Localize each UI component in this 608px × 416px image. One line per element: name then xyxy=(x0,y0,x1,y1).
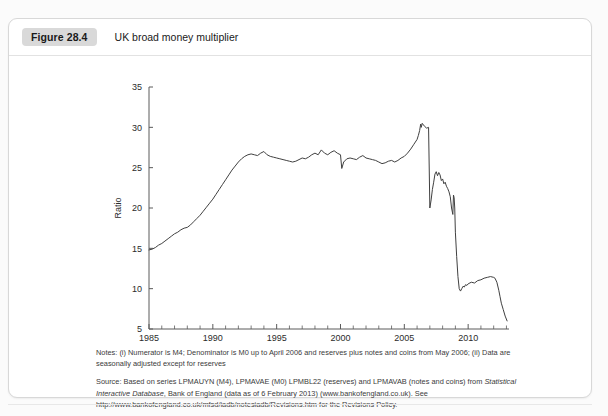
x-tick-label: 2010 xyxy=(458,333,478,343)
source-text-post: , Bank of England (data as of 6 February… xyxy=(164,389,413,398)
y-tick-label: 35 xyxy=(132,82,142,92)
x-axis-ticks: 198519901995200020052010 xyxy=(139,324,506,343)
x-tick-label: 2000 xyxy=(330,333,350,343)
y-axis-title: Ratio xyxy=(113,197,123,218)
figure-header: Figure 28.4 UK broad money multiplier xyxy=(9,19,591,55)
figure-card: Figure 28.4 UK broad money multiplier 51… xyxy=(8,18,592,398)
y-tick-label: 25 xyxy=(132,163,142,173)
data-series-line xyxy=(149,123,507,321)
figure-number-badge: Figure 28.4 xyxy=(22,28,97,47)
y-tick-label: 20 xyxy=(132,203,142,213)
y-tick-label: 10 xyxy=(132,284,142,294)
figure-title: UK broad money multiplier xyxy=(115,32,239,43)
notes-paragraph: Notes: (i) Numerator is M4; Denominator … xyxy=(96,347,546,369)
page-bottom-divider xyxy=(8,404,592,405)
chart-container: 5101520253035 198519901995200020052010 R… xyxy=(9,56,593,346)
x-tick-label: 1985 xyxy=(139,333,159,343)
y-tick-label: 15 xyxy=(132,244,142,254)
line-chart: 5101520253035 198519901995200020052010 R… xyxy=(9,56,593,346)
x-tick-label: 1995 xyxy=(267,333,287,343)
x-tick-label: 2005 xyxy=(394,333,414,343)
page-root: Figure 28.4 UK broad money multiplier 51… xyxy=(0,0,608,416)
y-axis-ticks: 5101520253035 xyxy=(132,82,153,334)
figure-notes: Notes: (i) Numerator is M4; Denominator … xyxy=(96,347,546,410)
source-text-pre: Source: Based on series LPMAUYN (M4), LP… xyxy=(96,377,484,386)
x-tick-label: 1990 xyxy=(203,333,223,343)
y-tick-label: 30 xyxy=(132,123,142,133)
